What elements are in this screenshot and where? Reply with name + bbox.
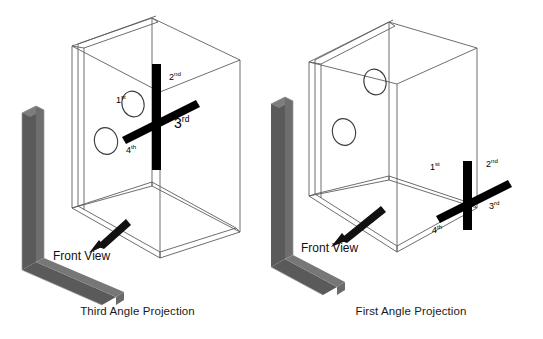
- quadrant-label-fourth: 4th: [432, 226, 442, 235]
- front-view-label: Front View: [53, 250, 110, 262]
- quadrant-label-second: 2nd: [169, 73, 181, 82]
- hole-lower: [92, 125, 121, 157]
- vertical-screen-side: [285, 97, 293, 259]
- third-angle-illustration: [0, 0, 271, 339]
- hole-lower: [330, 116, 359, 148]
- third-angle-caption: Third Angle Projection: [2, 305, 273, 317]
- first-angle-caption: First Angle Projection: [275, 305, 543, 317]
- first-angle-projection-panel: 1st 2nd 3rd 4th Front View First Angle P…: [271, 0, 543, 339]
- glass-box-wireframe: [309, 20, 477, 252]
- vertical-screen-face: [22, 106, 36, 270]
- vertical-axis-bar: [152, 64, 161, 170]
- hole-ellipses: [330, 66, 390, 147]
- vertical-screen-side: [36, 106, 44, 262]
- front-view-label: Front View: [301, 242, 358, 254]
- quadrant-label-fourth: 4th: [126, 146, 136, 155]
- projection-plane-L: [271, 97, 345, 295]
- projection-comparison-diagram: 1st 2nd 3rd 4th Front View Third Angle P…: [0, 0, 543, 339]
- quadrant-label-third: 3rd: [489, 202, 500, 211]
- hole-upper: [361, 66, 389, 97]
- projection-plane-L: [22, 106, 124, 305]
- vertical-screen-face: [271, 97, 285, 267]
- quadrant-label-first: 1st: [116, 96, 126, 105]
- diagonal-axis-bar: [436, 180, 512, 223]
- third-angle-projection-panel: 1st 2nd 3rd 4th Front View Third Angle P…: [0, 0, 271, 339]
- quadrant-label-third: 3rd: [174, 116, 189, 130]
- quadrant-label-second: 2nd: [486, 160, 498, 169]
- first-angle-illustration: [271, 0, 543, 339]
- vertical-axis-bar: [463, 161, 472, 230]
- quadrant-label-first: 1st: [430, 163, 440, 172]
